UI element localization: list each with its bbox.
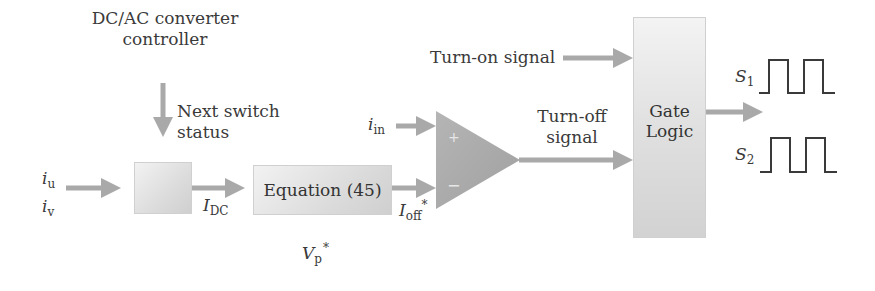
equation-block-label: Equation (45) [254,181,391,201]
gate-logic-label-line1: Gate [634,102,705,122]
iv-label: iv [42,198,54,218]
iu-sub: u [47,177,55,191]
equation-block: Equation (45) [253,165,392,215]
gate-logic-block: Gate Logic [633,17,706,238]
s1-waveform [759,60,835,93]
ioff-base: I [399,200,406,220]
turn-off-label-line1: Turn-off [522,108,622,125]
current-processing-block [134,162,192,214]
gate-logic-label-line2: Logic [634,122,705,142]
controller-label-line1: DC/AC converter [82,10,248,27]
vp-base: V [302,243,314,263]
vp-sub: p [314,252,322,266]
ioff-label: Ioff* [399,199,427,222]
comparator-plus-sign: + [448,129,460,145]
next-switch-status-label: Next switch status [177,103,280,141]
controller-label-line2: controller [82,31,248,48]
s2-sub: 2 [747,153,755,167]
turn-off-label-line2: signal [522,129,622,146]
comparator-minus-sign: − [447,176,460,195]
turn-off-signal-label: Turn-off signal [522,108,622,146]
s1-label: S1 [735,68,754,88]
idc-sub: DC [210,204,229,218]
idc-base: I [203,195,210,215]
iu-label: iu [42,170,55,190]
controller-label: DC/AC converter controller [82,10,248,48]
ioff-sup: * [421,198,427,212]
idc-label: IDC [203,197,229,217]
iv-sub: v [47,205,54,219]
vp-label: Vp* [302,242,329,265]
comparator: + − [436,111,520,209]
s2-label: S2 [735,146,754,166]
s2-base: S [735,144,747,164]
s1-base: S [735,66,747,86]
iin-label: iin [368,116,385,136]
next-switch-label-line2: status [177,124,280,141]
gate-logic-label: Gate Logic [634,102,705,141]
next-switch-label-line1: Next switch [177,103,280,120]
ioff-sub: off [406,209,422,223]
iin-sub: in [373,123,385,137]
turn-on-signal-label: Turn-on signal [430,49,555,66]
s1-sub: 1 [747,75,755,89]
s2-waveform [760,138,837,172]
vp-sup: * [323,241,329,255]
